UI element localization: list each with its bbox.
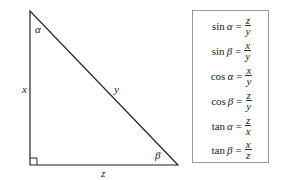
angle-symbol: α xyxy=(227,70,233,82)
function-name: sin xyxy=(212,45,225,57)
angle-alpha-label: α xyxy=(35,24,41,35)
formula-cos-alpha: cosα= xy xyxy=(193,65,270,86)
fraction: zx xyxy=(245,115,251,136)
function-name: cos xyxy=(211,95,226,107)
fraction: xy xyxy=(245,65,252,86)
denominator: y xyxy=(245,51,250,61)
fraction: xy xyxy=(244,40,251,61)
denominator: y xyxy=(246,76,251,86)
side-z-label: z xyxy=(101,168,105,179)
formula-tan-beta: tanβ= xz xyxy=(193,139,270,160)
angle-beta-label: β xyxy=(155,150,160,161)
equals-sign: = xyxy=(235,144,241,156)
angle-symbol: α xyxy=(227,120,233,132)
side-x-label: x xyxy=(22,84,27,95)
fraction: zy xyxy=(245,15,251,36)
equals-sign: = xyxy=(235,45,241,57)
equals-sign: = xyxy=(236,120,242,132)
angle-symbol: β xyxy=(227,45,232,57)
equals-sign: = xyxy=(236,20,242,32)
angle-symbol: α xyxy=(227,20,233,32)
fraction: xz xyxy=(245,139,252,160)
angle-symbol: β xyxy=(227,144,232,156)
denominator: y xyxy=(246,101,251,111)
formula-sin-beta: sinβ= xy xyxy=(193,40,270,61)
function-name: tan xyxy=(211,144,224,156)
denominator: y xyxy=(245,26,250,36)
denominator: z xyxy=(246,150,250,160)
formula-sin-alpha: sinα= zy xyxy=(193,15,270,36)
right-angle-marker xyxy=(30,158,37,165)
fraction: zy xyxy=(246,90,252,111)
function-name: tan xyxy=(212,120,225,132)
equals-sign: = xyxy=(236,95,242,107)
denominator: x xyxy=(246,126,251,136)
equals-sign: = xyxy=(236,70,242,82)
formula-box: sinα= zy sinβ= xy cosα= xy cosβ= zy tanα… xyxy=(192,10,269,163)
function-name: sin xyxy=(212,20,225,32)
formula-cos-beta: cosβ= zy xyxy=(193,90,270,111)
right-triangle xyxy=(30,11,178,165)
side-y-label: y xyxy=(114,84,119,95)
formula-tan-alpha: tanα= zx xyxy=(193,115,270,136)
function-name: cos xyxy=(211,70,226,82)
angle-symbol: β xyxy=(228,95,233,107)
